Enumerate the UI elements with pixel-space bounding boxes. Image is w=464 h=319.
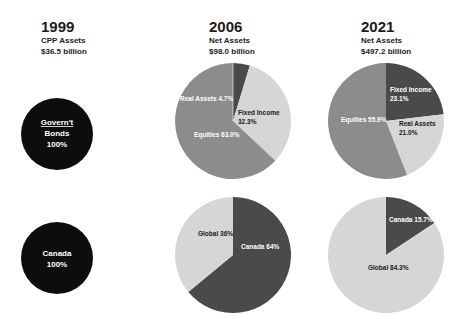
label-2021-canada: Canada 15.7% bbox=[389, 216, 433, 223]
label-2006-canada: Canada 64% bbox=[241, 243, 280, 250]
pie-2021-assets: Fixed Income 23.1% Real Assets 21.0% Equ… bbox=[328, 63, 444, 179]
pie-2021-geography: Canada 15.7% Global 84.3% bbox=[328, 197, 444, 313]
label-2006-equities: Equities 63.0% bbox=[194, 131, 240, 139]
slice-canada-1999 bbox=[21, 222, 93, 294]
pie-charts: Govern't Bonds 100% Real Assets 4.7% Fix… bbox=[0, 0, 464, 319]
label-2021-fixed-income-1: Fixed Income bbox=[390, 86, 432, 93]
label-canada-1999-line2: 100% bbox=[47, 260, 67, 269]
label-2021-real-assets-2: 21.0% bbox=[399, 129, 418, 136]
label-2006-global: Global 36% bbox=[198, 230, 233, 237]
label-2021-real-assets-1: Real Assets bbox=[399, 120, 436, 127]
label-govt-line2: Bonds bbox=[45, 129, 70, 138]
label-canada-1999-line1: Canada bbox=[43, 249, 72, 258]
pie-1999-assets: Govern't Bonds 100% bbox=[21, 98, 93, 170]
pie-2006-geography: Global 36% Canada 64% bbox=[175, 197, 291, 313]
label-2006-real-assets: Real Assets 4.7% bbox=[180, 95, 233, 102]
label-2021-global: Global 84.3% bbox=[368, 264, 409, 271]
label-2006-fixed-income-2: 32.3% bbox=[238, 118, 257, 125]
label-govt-line3: 100% bbox=[47, 140, 67, 149]
pie-1999-geography: Canada 100% bbox=[21, 222, 93, 294]
label-govt-line1: Govern't bbox=[41, 118, 74, 127]
label-2021-equities: Equities 55.9% bbox=[341, 116, 387, 124]
pie-2006-assets: Real Assets 4.7% Fixed Income 32.3% Equi… bbox=[175, 63, 291, 179]
label-2021-fixed-income-2: 23.1% bbox=[390, 95, 409, 102]
label-2006-fixed-income-1: Fixed Income bbox=[238, 109, 280, 116]
